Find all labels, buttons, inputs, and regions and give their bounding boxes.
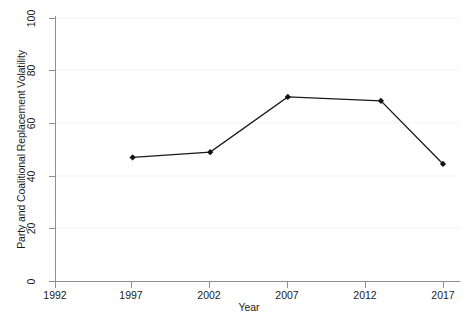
gridlines	[55, 18, 460, 228]
series-markers	[130, 94, 447, 167]
series-line	[133, 97, 443, 164]
data-point-1997	[130, 154, 136, 160]
chart-figure: Party and Coalitional Replacement Volati…	[0, 0, 466, 323]
y-axis	[49, 16, 56, 282]
scan-artifact-right	[330, 2, 332, 9]
x-axis	[55, 282, 460, 289]
scan-artifact-left	[152, 2, 154, 9]
plot-area	[0, 0, 466, 323]
data-series-volatility	[130, 94, 447, 167]
